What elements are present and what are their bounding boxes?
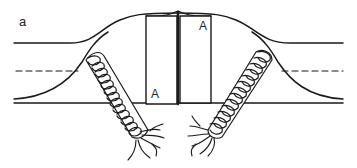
left-block-label: A <box>151 88 159 100</box>
diagram: a A A <box>0 0 357 168</box>
panel-label: a <box>19 15 26 28</box>
diagram-drawing <box>0 0 357 168</box>
right-coiled-tube <box>208 50 272 138</box>
right-block-label: A <box>199 20 207 32</box>
left-coiled-tube <box>86 53 148 139</box>
